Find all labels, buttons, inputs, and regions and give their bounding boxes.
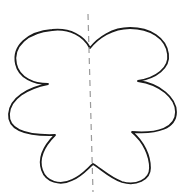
symmetry-figure	[0, 0, 185, 194]
figure-svg	[0, 0, 185, 194]
